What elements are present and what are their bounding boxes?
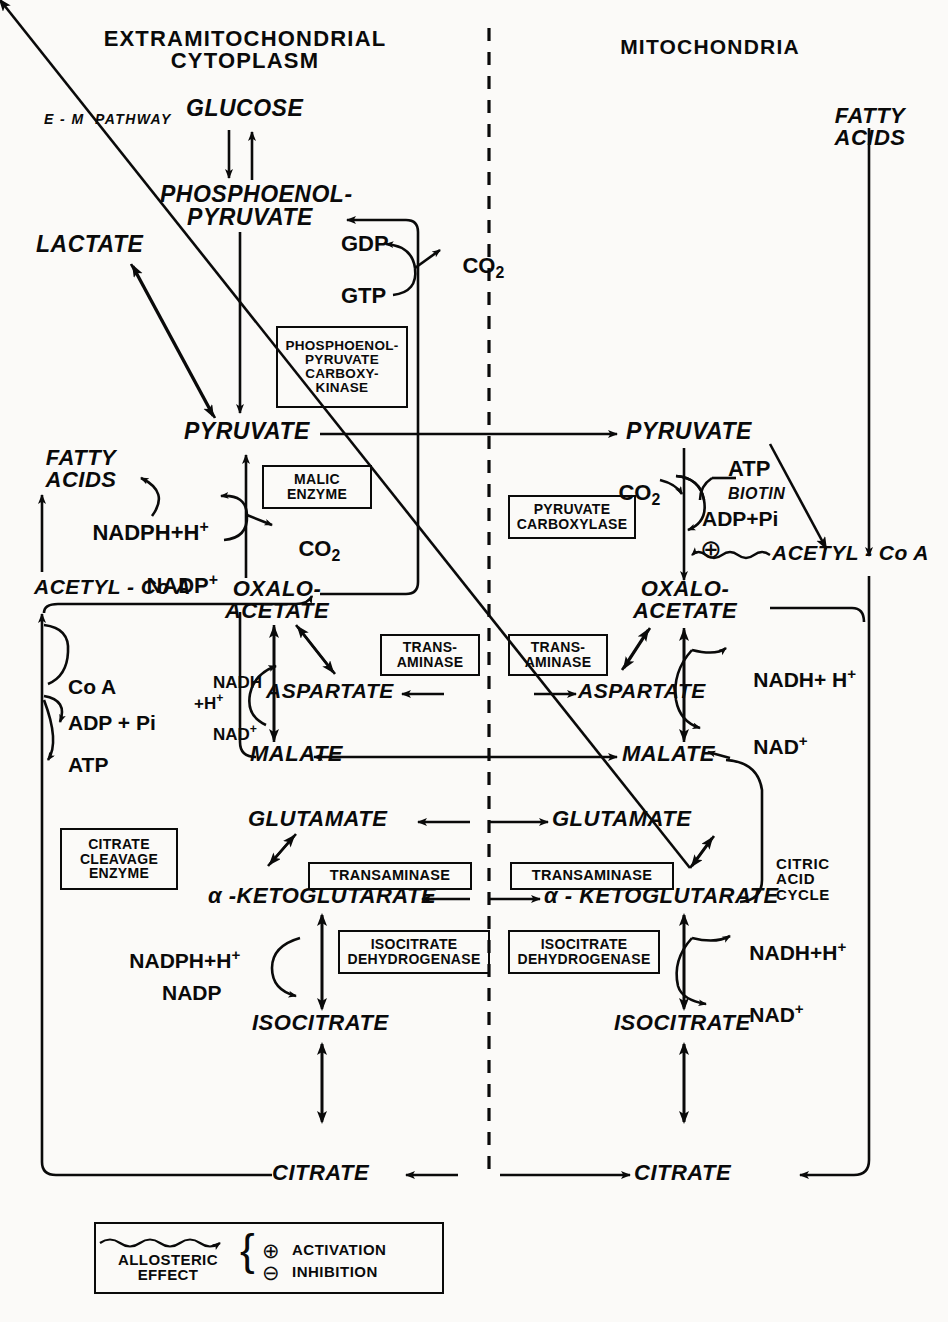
label-citric-acid-cycle: CITRIC ACID CYCLE: [776, 856, 866, 902]
co2-malic-text: CO: [298, 536, 331, 561]
cofactor-adp-pi-cyto: ADP + Pi: [68, 712, 156, 733]
co2-text: CO: [462, 253, 495, 278]
nad-icd-mito-text: NAD: [749, 1003, 795, 1026]
metabolite-pyruvate-mito: PYRUVATE: [626, 420, 752, 443]
legend-inhibition-symbol: ⊖: [262, 1262, 280, 1283]
enzyme-pyruvate-carboxylase: PYRUVATE CARBOXYLASE: [508, 495, 636, 539]
cofactor-adp-pi-pc: ADP+Pi: [702, 508, 778, 529]
nadh-mdh-superscript: +: [847, 665, 856, 682]
cofactor-nad-plus-mdh-mito: NAD+: [730, 712, 808, 779]
metabolite-acetyl-coa-cyto: ACETYL - Co A: [34, 576, 191, 597]
legend-inhibition-label: INHIBITION: [292, 1264, 378, 1279]
cofactor-nadp-icd-cyto: NADP: [162, 982, 222, 1003]
cofactor-atp-cyto: ATP: [68, 754, 108, 775]
nadph-icd-text: NADPH+H: [129, 949, 231, 972]
metabolite-pyruvate-cyto: PYRUVATE: [184, 420, 310, 443]
metabolite-isocitrate-cyto: ISOCITRATE: [252, 1012, 389, 1034]
nad-mdh-superscript: +: [799, 732, 808, 749]
metabolite-malate-mito: MALATE: [622, 743, 715, 765]
nad-mdh-text: NAD: [753, 735, 799, 758]
nadh-mdh-text: NADH+ H: [753, 668, 847, 691]
nad-superscript: +: [250, 722, 257, 736]
legend-activation-label: ACTIVATION: [292, 1242, 386, 1257]
metabolite-citrate-mito: CITRATE: [634, 1162, 731, 1184]
legend-brace: {: [240, 1228, 255, 1273]
metabolite-aspartate-cyto: ASPARTATE: [266, 680, 394, 701]
cofactor-coa-cyto: Co A: [68, 676, 116, 697]
metabolite-phosphoenolpyruvate: PHOSPHOENOL- PYRUVATE: [160, 183, 340, 230]
legend-activation-symbol: ⊕: [262, 1240, 280, 1261]
nad-text: NAD: [213, 725, 250, 744]
metabolite-ketoglutarate-mito: α - KETOGLUTARATE: [544, 885, 779, 907]
metabolite-acetyl-coa-mito: ACETYL - Co A: [772, 542, 929, 563]
co2-subscript: 2: [495, 265, 504, 282]
nadh-superscript: +: [216, 691, 223, 705]
label-em-pathway: E - M PATHWAY: [44, 112, 172, 126]
nadph-text: NADPH+H: [92, 521, 199, 546]
metabolite-fatty-acids-mito: FATTY ACIDS: [820, 105, 920, 150]
metabolite-citrate-cyto: CITRATE: [272, 1162, 369, 1184]
nadph-superscript: +: [199, 518, 208, 535]
enzyme-isocitrate-dh-cyto: ISOCITRATE DEHYDROGENASE: [338, 930, 490, 974]
activation-symbol-pc: ⊕: [700, 536, 722, 563]
enzyme-citrate-cleavage: CITRATE CLEAVAGE ENZYME: [60, 828, 178, 890]
metabolite-oxaloacetate-cyto: OXALO- ACETATE: [212, 578, 342, 623]
nadh-icd-mito-text: NADH+H: [749, 941, 837, 964]
metabolite-fatty-acids-cyto: FATTY ACIDS: [26, 447, 136, 492]
enzyme-malic: MALIC ENZYME: [262, 465, 372, 509]
metabolite-glutamate-cyto: GLUTAMATE: [248, 808, 387, 830]
enzyme-transaminase-asp-cyto: TRANS- AMINASE: [380, 634, 480, 676]
cofactor-gtp: GTP: [341, 285, 386, 307]
cofactor-nadh-h-mdh-mito: NADH+ H+: [730, 645, 856, 712]
co2-pc-subscript: 2: [651, 492, 660, 509]
metabolite-glutamate-mito: GLUTAMATE: [552, 808, 691, 830]
nad-icd-mito-superscript: +: [795, 1000, 804, 1017]
header-mitochondria: MITOCHONDRIA: [570, 36, 850, 57]
metabolite-aspartate-mito: ASPARTATE: [578, 680, 706, 701]
metabolite-isocitrate-mito: ISOCITRATE: [614, 1012, 751, 1034]
enzyme-transaminase-asp-mito: TRANS- AMINASE: [508, 634, 608, 676]
pathway-diagram-page: EXTRAMITOCHONDRIAL CYTOPLASM MITOCHONDRI…: [0, 0, 948, 1322]
cofactor-biotin: BIOTIN: [728, 486, 785, 502]
header-extramitochondrial-cytoplasm: EXTRAMITOCHONDRIAL CYTOPLASM: [80, 28, 410, 73]
metabolite-malate-cyto: MALATE: [250, 743, 343, 765]
cofactor-nadh-h-icd-mito: NADH+H+: [726, 918, 846, 985]
metabolite-oxaloacetate-mito: OXALO- ACETATE: [620, 578, 750, 623]
enzyme-pepck: PHOSPHOENOL- PYRUVATE CARBOXY- KINASE: [276, 326, 408, 408]
co2-malic-subscript: 2: [331, 548, 340, 565]
cofactor-nad-plus-cyto: NAD+: [194, 706, 257, 761]
nadh-icd-mito-superscript: +: [837, 938, 846, 955]
enzyme-isocitrate-dh-mito: ISOCITRATE DEHYDROGENASE: [508, 930, 660, 974]
metabolite-glucose: GLUCOSE: [186, 97, 303, 120]
cofactor-co2-pepck: CO2: [438, 233, 504, 304]
nadph-icd-superscript: +: [231, 946, 240, 963]
metabolite-ketoglutarate-cyto: α -KETOGLUTARATE: [208, 885, 436, 907]
metabolite-lactate-cyto: LACTATE: [36, 233, 143, 256]
cofactor-atp-pc: ATP: [728, 458, 770, 480]
cofactor-gdp: GDP: [341, 233, 389, 255]
legend-allosteric-effect-label: ALLOSTERIC EFFECT: [98, 1252, 238, 1283]
